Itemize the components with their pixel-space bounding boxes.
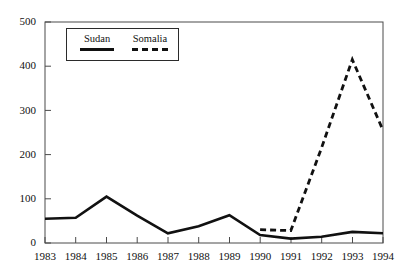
chart-legend: Sudan Somalia [66,28,179,61]
legend-label-somalia: Somalia [123,32,177,45]
legend-swatch-solid-line [80,48,114,51]
y-tick-label-500: 500 [2,15,36,27]
y-axis-ticks [45,22,51,243]
y-tick-label-100: 100 [2,192,36,204]
chart-plot-area [0,0,407,275]
series-line-sudan [45,197,383,239]
chart-container: 500 400 300 200 100 0 1983 1984 1985 198… [0,0,407,275]
x-axis-ticks [45,237,383,243]
legend-swatch-dashed-line [132,48,168,51]
series-line-somalia [260,60,383,231]
legend-entry-somalia: Somalia [123,32,177,51]
y-tick-label-200: 200 [2,148,36,160]
legend-entry-sudan: Sudan [71,32,123,51]
y-tick-label-300: 300 [2,104,36,116]
legend-label-sudan: Sudan [71,32,123,45]
y-tick-label-400: 400 [2,59,36,71]
y-tick-label-0: 0 [2,236,36,248]
x-tick-label-1994: 1994 [363,250,403,262]
